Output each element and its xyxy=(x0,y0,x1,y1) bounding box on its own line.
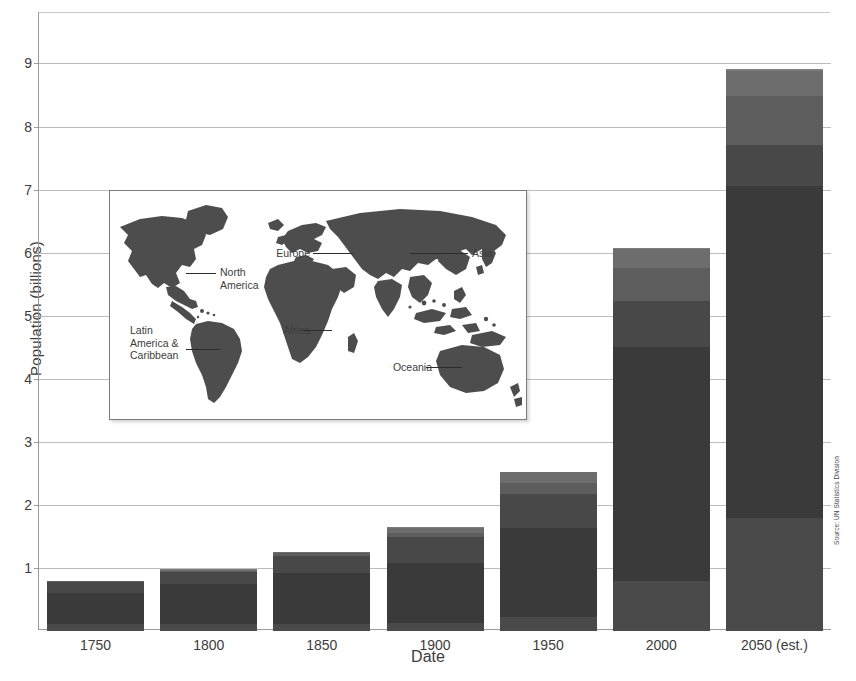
bar-segment-europe xyxy=(47,582,144,592)
bar-segment-oceania xyxy=(387,527,484,528)
bar-segment-latin-america-caribbean xyxy=(613,268,710,301)
bar-segment-europe xyxy=(500,494,597,529)
map-leader-africa xyxy=(302,330,332,331)
map-label-north-america: North America xyxy=(220,266,290,291)
bar-segment-oceania xyxy=(160,569,257,570)
bar-segment-north-america xyxy=(160,570,257,571)
y-tick-label: 1 xyxy=(24,560,32,576)
source-note: Source: UN Statistics Division xyxy=(833,435,840,545)
bar-segment-latin-america-caribbean xyxy=(47,581,144,582)
bar-segment-latin-america-caribbean xyxy=(500,483,597,494)
bar-segment-north-america xyxy=(273,552,370,554)
world-map-svg xyxy=(110,191,526,419)
bar-segment-latin-america-caribbean xyxy=(273,553,370,556)
x-axis-title: Date xyxy=(0,648,856,666)
bar-segment-africa xyxy=(500,617,597,632)
y-tick-label: 3 xyxy=(24,434,32,450)
map-leader-north-america xyxy=(186,273,216,274)
bar-2000[interactable] xyxy=(613,248,710,631)
map-leader-europe xyxy=(313,253,353,254)
y-tick-label: 8 xyxy=(24,119,32,135)
bar-segment-asia xyxy=(726,186,823,517)
y-tick-label: 5 xyxy=(24,308,32,324)
bar-segment-europe xyxy=(613,301,710,347)
bar-2050-est-[interactable] xyxy=(726,69,823,631)
y-tick-label: 7 xyxy=(24,182,32,198)
map-label-europe: Europe xyxy=(250,247,310,260)
bar-segment-africa xyxy=(47,624,144,631)
y-tick-label: 4 xyxy=(24,371,32,387)
bar-segment-africa xyxy=(160,624,257,631)
bar-segment-latin-america-caribbean xyxy=(160,570,257,571)
y-tick-label: 2 xyxy=(24,497,32,513)
bar-segment-africa xyxy=(387,623,484,631)
y-tick-label: 6 xyxy=(24,245,32,261)
population-stacked-bar-chart: Population (billions) 123456789 17501800… xyxy=(0,0,856,681)
y-tick-label: 9 xyxy=(24,55,32,71)
map-leader-asia xyxy=(410,253,468,254)
bar-1800[interactable] xyxy=(160,569,257,631)
bar-segment-europe xyxy=(273,556,370,573)
bar-segment-asia xyxy=(47,593,144,625)
bar-segment-north-america xyxy=(613,249,710,269)
bar-segment-africa xyxy=(613,581,710,631)
bar-1900[interactable] xyxy=(387,527,484,631)
bar-segment-europe xyxy=(726,145,823,186)
bar-segment-asia xyxy=(273,573,370,624)
bar-segment-north-america xyxy=(500,472,597,483)
bar-segment-asia xyxy=(387,563,484,623)
bar-segment-africa xyxy=(726,518,823,632)
bar-segment-africa xyxy=(273,624,370,631)
map-label-latin-america: Latin America & Caribbean xyxy=(130,324,192,362)
bar-1950[interactable] xyxy=(500,472,597,631)
bar-segment-oceania xyxy=(726,69,823,71)
bar-segment-north-america xyxy=(387,528,484,533)
bar-segment-asia xyxy=(500,528,597,616)
map-label-asia: Asia xyxy=(472,247,527,260)
bar-segment-oceania xyxy=(613,248,710,249)
map-leader-oceania xyxy=(426,367,462,368)
bar-segment-latin-america-caribbean xyxy=(387,533,484,537)
map-label-oceania: Oceania xyxy=(378,361,432,374)
bar-segment-north-america xyxy=(726,71,823,96)
bar-1750[interactable] xyxy=(47,581,144,631)
world-map-inset: Europe Asia North America Latin America … xyxy=(109,190,527,420)
plot-area: 123456789 1750180018501900195020002050 (… xyxy=(38,12,830,630)
bar-segment-europe xyxy=(387,537,484,563)
bar-1850[interactable] xyxy=(273,552,370,631)
map-leader-latin-america xyxy=(186,349,220,350)
bar-segment-asia xyxy=(613,347,710,580)
bar-segment-europe xyxy=(160,572,257,585)
bar-segment-latin-america-caribbean xyxy=(726,96,823,145)
bar-segment-asia xyxy=(160,584,257,624)
